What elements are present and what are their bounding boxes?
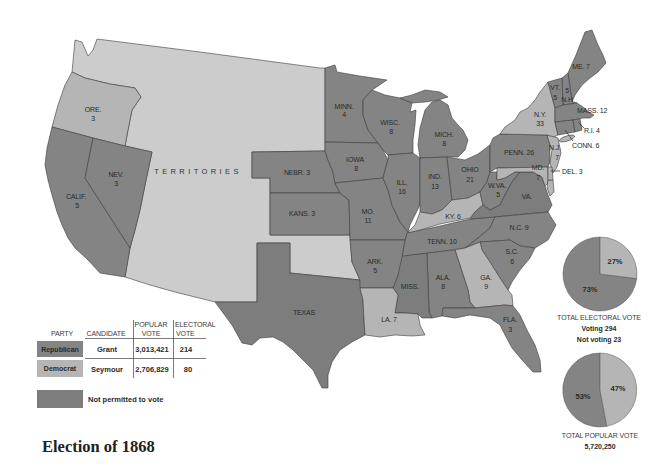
label-texas: TEXAS: [293, 309, 316, 316]
label-ri: R.I. 4: [584, 127, 600, 134]
legend-header-electoral-vote: ELECTORALVOTE: [175, 321, 216, 337]
territories-label: TERRITORIES: [154, 167, 242, 176]
legend-party-republican: Republican: [41, 346, 79, 354]
pie-electoral-voting: Voting 294: [582, 325, 617, 333]
legend-candidate-grant: Grant: [97, 345, 118, 354]
pie-popular-label-republican: 53%: [575, 392, 590, 401]
election-map-page: TERRITORIES ORE.3 NEV.3 CALIF.5 NEBR. 3 …: [0, 0, 662, 475]
state-del: [548, 167, 553, 180]
map-title: Election of 1868: [42, 437, 155, 456]
label-nebr: NEBR. 3: [284, 169, 310, 176]
label-miss: MISS.: [401, 283, 420, 290]
pie-popular-label-democrat: 47%: [610, 384, 625, 393]
legend-popular-grant: 3,013,421: [135, 345, 168, 354]
pie-popular-total: 5,720,250: [584, 443, 615, 451]
label-me: ME. 7: [572, 63, 590, 70]
label-va: VA.: [522, 193, 533, 200]
pie-electoral-title: TOTAL ELECTORAL VOTE: [557, 314, 641, 321]
pie-electoral-not-voting: Not voting 23: [577, 336, 621, 344]
label-tenn: TENN. 10: [427, 238, 457, 245]
label-ky: KY. 6: [445, 213, 461, 220]
legend-electoral-seymour: 80: [184, 365, 192, 374]
legend-candidate-seymour: Seymour: [91, 365, 123, 374]
pie-popular-title: TOTAL POPULAR VOTE: [562, 432, 639, 439]
state-fla: [442, 305, 541, 372]
legend-header-popular-vote: POPULARVOTE: [135, 321, 168, 337]
legend-party-democrat: Democrat: [44, 365, 77, 372]
legend-header-party: PARTY: [51, 330, 74, 337]
state-md-eastern-shore: [547, 180, 554, 196]
pie-electoral-label-republican: 73%: [582, 285, 597, 294]
legend-swatch-not-permitted: [37, 390, 83, 408]
pie-popular-vote: 47% 53% TOTAL POPULAR VOTE 5,720,250: [562, 353, 639, 451]
label-penn: PENN. 26: [504, 149, 534, 156]
label-mass: MASS. 12: [577, 107, 608, 114]
legend-table: PARTY CANDIDATE POPULARVOTE ELECTORALVOT…: [37, 320, 216, 408]
pie-electoral-vote: 27% 73% TOTAL ELECTORAL VOTE Voting 294 …: [557, 237, 641, 344]
label-kans: KANS. 3: [289, 210, 315, 217]
label-nc: N.C. 9: [510, 224, 529, 231]
legend-not-permitted-label: Not permitted to vote: [88, 395, 163, 404]
state-conn: [555, 120, 575, 135]
state-mich: [418, 100, 468, 158]
pie-electoral-label-democrat: 27%: [607, 257, 622, 266]
map-canvas: TERRITORIES ORE.3 NEV.3 CALIF.5 NEBR. 3 …: [0, 0, 662, 475]
label-del: DEL. 3: [562, 168, 583, 175]
legend-header-candidate: CANDIDATE: [86, 330, 125, 337]
label-la: LA. 7: [381, 316, 397, 323]
legend-electoral-grant: 214: [180, 345, 193, 354]
label-conn: CONN. 6: [572, 142, 600, 149]
legend-popular-seymour: 2,706,829: [135, 365, 168, 374]
